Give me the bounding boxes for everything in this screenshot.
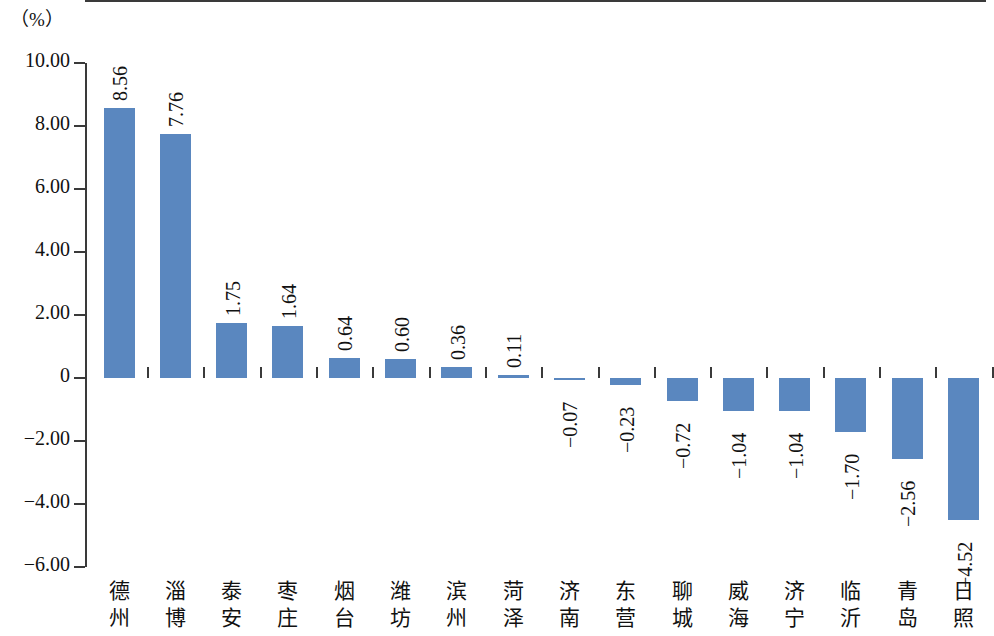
- bar-value-label: 0.60: [391, 317, 414, 352]
- category-tick: [710, 367, 712, 378]
- category-label-char: 州: [97, 605, 141, 632]
- y-axis-tick: [74, 188, 85, 190]
- bar-chart: （%） 10.008.006.004.002.000−2.00−4.00−6.0…: [0, 0, 994, 636]
- category-tick: [372, 367, 374, 378]
- y-axis-tick-label: 8.00: [0, 112, 70, 135]
- category-label-char: 海: [716, 605, 760, 632]
- category-label-char: 照: [942, 605, 986, 632]
- category-tick: [429, 367, 431, 378]
- category-label-char: 聊: [660, 578, 704, 605]
- y-axis-tick-label: 6.00: [0, 175, 70, 198]
- category-label-char: 南: [547, 605, 591, 632]
- y-axis-tick-label: 4.00: [0, 238, 70, 261]
- category-label-char: 淄: [153, 578, 197, 605]
- bar[interactable]: [441, 367, 472, 378]
- category-label: 东营: [604, 578, 648, 632]
- y-axis-tick-label: 2.00: [0, 301, 70, 324]
- category-label: 菏泽: [491, 578, 535, 632]
- category-label-char: 州: [435, 605, 479, 632]
- bar-value-label: 0.36: [447, 325, 470, 360]
- bar-value-label: 0.11: [503, 333, 526, 367]
- category-label-char: 营: [604, 605, 648, 632]
- bar[interactable]: [835, 378, 866, 432]
- category-label-char: 泰: [210, 578, 254, 605]
- y-axis-tick: [74, 125, 85, 127]
- y-axis-tick: [74, 440, 85, 442]
- bar[interactable]: [779, 378, 810, 411]
- bar-value-label: −1.04: [785, 432, 808, 478]
- category-label: 滨州: [435, 578, 479, 632]
- category-label: 淄博: [153, 578, 197, 632]
- bar[interactable]: [948, 378, 979, 520]
- category-label-char: 博: [153, 605, 197, 632]
- category-label-char: 菏: [491, 578, 535, 605]
- category-label-char: 庄: [266, 605, 310, 632]
- bar-value-label: 0.64: [334, 316, 357, 351]
- category-label-char: 威: [716, 578, 760, 605]
- category-label: 青岛: [885, 578, 929, 632]
- category-label: 泰安: [210, 578, 254, 632]
- y-axis-tick-label: −4.00: [0, 490, 70, 513]
- category-label-char: 枣: [266, 578, 310, 605]
- bar[interactable]: [610, 378, 641, 385]
- category-label: 聊城: [660, 578, 704, 632]
- category-label-char: 台: [322, 605, 366, 632]
- bar[interactable]: [160, 134, 191, 378]
- category-tick: [485, 367, 487, 378]
- bar[interactable]: [554, 378, 585, 380]
- category-label-char: 潍: [379, 578, 423, 605]
- y-axis-tick: [74, 377, 85, 379]
- category-label-char: 坊: [379, 605, 423, 632]
- bar[interactable]: [272, 326, 303, 378]
- category-tick: [879, 367, 881, 378]
- y-axis-tick: [74, 503, 85, 505]
- y-axis-tick: [74, 314, 85, 316]
- category-label: 烟台: [322, 578, 366, 632]
- bar[interactable]: [329, 358, 360, 378]
- category-label-char: 泽: [491, 605, 535, 632]
- category-label: 潍坊: [379, 578, 423, 632]
- bar-value-label: −0.23: [616, 407, 639, 453]
- category-label-char: 城: [660, 605, 704, 632]
- bar[interactable]: [723, 378, 754, 411]
- category-label: 枣庄: [266, 578, 310, 632]
- category-tick: [766, 367, 768, 378]
- category-tick: [203, 367, 205, 378]
- bar[interactable]: [498, 375, 529, 378]
- bar[interactable]: [667, 378, 698, 401]
- category-tick: [316, 367, 318, 378]
- category-label-char: 沂: [829, 605, 873, 632]
- bar-value-label: −2.56: [897, 480, 920, 526]
- category-label-char: 东: [604, 578, 648, 605]
- plot-area: 8.567.761.751.640.640.600.360.11−0.07−0.…: [85, 63, 986, 567]
- category-label: 德州: [97, 578, 141, 632]
- category-label: 临沂: [829, 578, 873, 632]
- bar[interactable]: [892, 378, 923, 459]
- bar[interactable]: [104, 108, 135, 378]
- bar-value-label: −0.72: [672, 422, 695, 468]
- category-tick: [598, 367, 600, 378]
- zero-baseline: [85, 0, 986, 2]
- y-axis-tick: [74, 251, 85, 253]
- category-tick: [541, 367, 543, 378]
- y-axis-tick-label: 0: [0, 364, 70, 387]
- bar-value-label: −1.04: [728, 432, 751, 478]
- category-label-char: 日: [942, 578, 986, 605]
- category-label-char: 岛: [885, 605, 929, 632]
- category-tick: [935, 367, 937, 378]
- y-axis-unit-label: （%）: [10, 4, 64, 31]
- y-axis-tick-label: 10.00: [0, 49, 70, 72]
- category-label-char: 济: [773, 578, 817, 605]
- category-tick: [823, 367, 825, 378]
- category-label-char: 济: [547, 578, 591, 605]
- bar[interactable]: [216, 323, 247, 378]
- category-tick: [654, 367, 656, 378]
- bar-value-label: −1.70: [841, 453, 864, 499]
- bar[interactable]: [385, 359, 416, 378]
- y-axis-tick: [74, 62, 85, 64]
- bar-value-label: 8.56: [109, 66, 132, 101]
- y-axis-tick-label: −6.00: [0, 553, 70, 576]
- bar-value-label: −0.07: [559, 402, 582, 448]
- category-label-char: 青: [885, 578, 929, 605]
- category-label-char: 烟: [322, 578, 366, 605]
